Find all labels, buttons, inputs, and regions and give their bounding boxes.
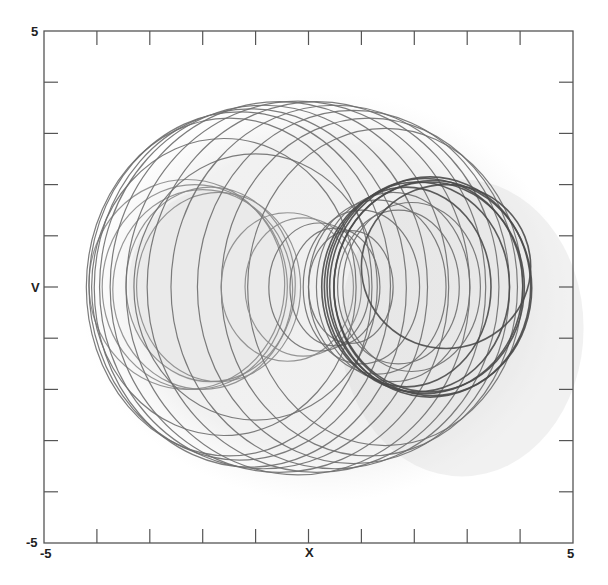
x-max-label: 5 — [567, 547, 574, 560]
y-min-label: -5 — [26, 536, 38, 549]
x-min-label: -5 — [40, 547, 52, 560]
phase-portrait-chart — [0, 0, 608, 585]
y-max-label: 5 — [31, 25, 38, 38]
y-axis-label: V — [31, 281, 40, 294]
x-axis-label: X — [305, 546, 314, 559]
